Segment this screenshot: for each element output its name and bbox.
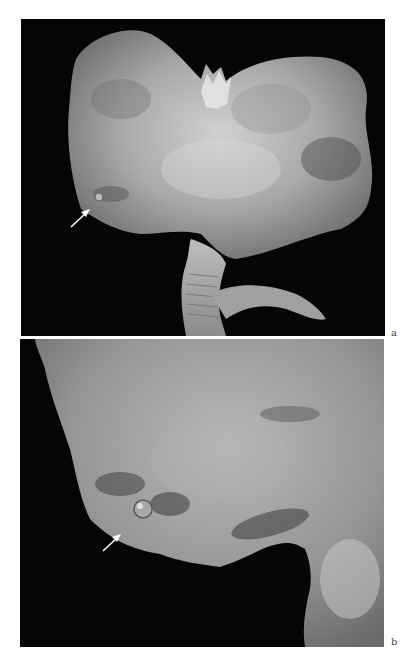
lesion bbox=[134, 500, 152, 518]
specimen-photo-b bbox=[20, 339, 384, 647]
specimen-tube bbox=[181, 239, 226, 336]
arrow-pointer-a bbox=[71, 209, 90, 227]
specimen-photo-a bbox=[21, 19, 385, 336]
panel-label-a: a bbox=[391, 327, 397, 338]
figure-panel-a bbox=[21, 19, 385, 336]
specimen-curl bbox=[211, 285, 326, 319]
figure-panel-b bbox=[20, 339, 384, 647]
panel-label-b: b bbox=[391, 636, 397, 647]
